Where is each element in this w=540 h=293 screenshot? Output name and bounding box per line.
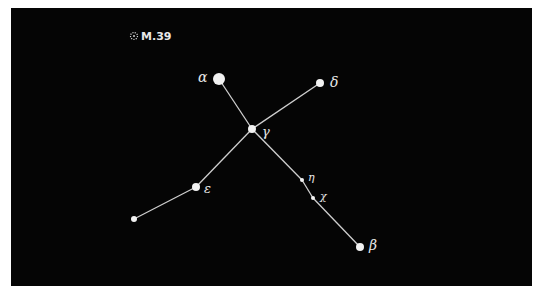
connector-line-chi-beta (313, 198, 360, 247)
star-labels: αδγεηχβ (198, 69, 377, 253)
star-label-eta: η (308, 171, 315, 184)
connector-line-gamma-epsilon (196, 129, 252, 187)
star-alpha (213, 73, 225, 85)
cluster-label: M.39 (141, 30, 171, 43)
star-gamma (248, 125, 256, 133)
star-label-epsilon: ε (204, 181, 211, 196)
connector-line-gamma-eta (252, 129, 302, 180)
constellation-lines (134, 79, 360, 247)
connector-line-alpha-gamma (219, 79, 252, 129)
star-label-chi: χ (319, 190, 328, 203)
connector-line-delta-gamma (252, 83, 320, 129)
star-beta (356, 243, 364, 251)
constellation-diagram: M.39 αδγεηχβ (0, 0, 540, 293)
star-delta (316, 79, 324, 87)
star-end (131, 216, 137, 222)
star-label-delta: δ (330, 74, 338, 90)
star-label-alpha: α (198, 69, 208, 85)
star-label-gamma: γ (262, 124, 270, 139)
star-cluster-m39: M.39 (131, 30, 172, 43)
cluster-center-dot (133, 35, 135, 37)
star-chi (311, 196, 315, 200)
connector-line-epsilon-end (134, 187, 196, 219)
star-eta (300, 178, 304, 182)
star-epsilon (192, 183, 200, 191)
constellation-stars (131, 73, 364, 251)
star-label-beta: β (368, 237, 377, 253)
